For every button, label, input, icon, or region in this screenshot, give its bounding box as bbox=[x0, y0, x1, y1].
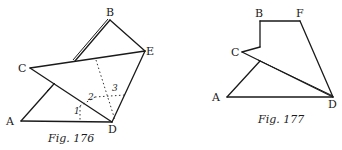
label-b: B bbox=[106, 6, 114, 19]
figure-176: A B C D E 1 2 3 Fig. 176 bbox=[5, 6, 154, 145]
label-a: A bbox=[5, 115, 15, 128]
label-a: A bbox=[211, 91, 221, 104]
edge-b-fold bbox=[75, 20, 110, 61]
fold-number-1: 1 bbox=[74, 106, 80, 116]
edge-b-fold-double bbox=[73, 19, 108, 60]
edge-ce bbox=[30, 51, 145, 68]
label-d: D bbox=[108, 123, 117, 136]
fold-line-3 bbox=[95, 95, 125, 97]
geometry-diagram: A B C D E 1 2 3 Fig. 176 A B C D F Fig. … bbox=[0, 0, 342, 150]
label-c: C bbox=[18, 62, 26, 75]
figure-177: A B C D F Fig. 177 bbox=[211, 7, 337, 126]
label-c: C bbox=[231, 46, 239, 59]
caption-fig-176: Fig. 176 bbox=[47, 132, 94, 145]
label-f: F bbox=[296, 7, 304, 20]
edge-ad bbox=[21, 121, 112, 122]
edge-cd bbox=[30, 68, 112, 122]
fold-number-2: 2 bbox=[87, 92, 94, 102]
fold-number-3: 3 bbox=[112, 83, 118, 93]
caption-fig-177: Fig. 177 bbox=[257, 113, 304, 126]
label-e: E bbox=[146, 45, 154, 58]
label-b: B bbox=[255, 7, 263, 20]
edge-be bbox=[110, 20, 145, 51]
edge-c-b bbox=[242, 47, 260, 52]
edge-a-fold bbox=[227, 61, 260, 97]
edge-fd bbox=[300, 21, 333, 97]
label-d: D bbox=[328, 98, 337, 111]
edge-cd-double bbox=[258, 60, 333, 96]
